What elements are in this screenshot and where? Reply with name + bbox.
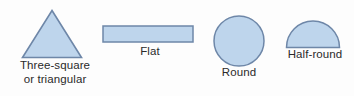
caption-line-1: Flat (100, 45, 200, 59)
figure-flat: Flat (100, 0, 200, 96)
caption-line-1: Half-round (276, 48, 354, 62)
rectangle-icon (102, 25, 194, 43)
circle-icon (213, 15, 265, 67)
semicircle-icon (285, 18, 341, 49)
triangle-icon (21, 9, 83, 59)
figure-three-square-caption: Three-square or triangular (0, 59, 110, 86)
figure-half-round: Half-round (276, 0, 354, 96)
figure-half-round-caption: Half-round (276, 48, 354, 62)
caption-line-2: or triangular (0, 73, 110, 87)
caption-line-1: Round (200, 66, 278, 80)
caption-line-1: Three-square (0, 59, 110, 73)
figure-three-square: Three-square or triangular (0, 0, 110, 96)
figure-round: Round (200, 0, 278, 96)
file-shapes-diagram: Three-square or triangular Flat Round (0, 0, 354, 96)
figure-flat-caption: Flat (100, 45, 200, 59)
figure-round-caption: Round (200, 66, 278, 80)
